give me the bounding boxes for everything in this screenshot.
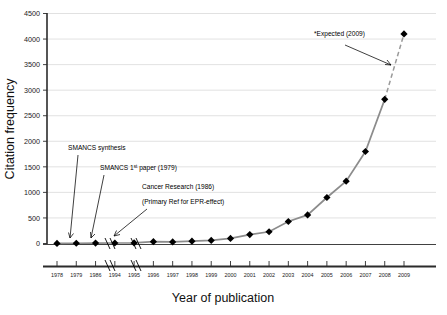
chart-canvas: 050010001500200025003000350040004500 197… <box>0 0 447 315</box>
annotation-sublabel: (Primary Ref for EPR-effect) <box>142 198 224 206</box>
y-tick-label: 0 <box>36 239 40 248</box>
x-tick-label: 2007 <box>359 272 371 278</box>
x-tick-label: 2001 <box>244 272 256 278</box>
x-axis-tick-labels: 1978197919861994199519961997199819992000… <box>51 272 410 278</box>
data-point-marker <box>53 240 60 247</box>
citation-frequency-chart: 050010001500200025003000350040004500 197… <box>0 0 447 315</box>
data-point-marker <box>188 238 195 245</box>
x-tick-label: 2006 <box>340 272 352 278</box>
data-point-marker <box>73 240 80 247</box>
y-axis-tick-labels: 050010001500200025003000350040004500 <box>24 9 40 248</box>
series-line-solid <box>57 99 385 243</box>
data-point-marker <box>227 235 234 242</box>
annotation-smancs-synthesis: SMANCS synthesis <box>68 144 126 238</box>
x-tick-label: 1995 <box>128 272 140 278</box>
series-group <box>53 30 407 247</box>
grid-lines <box>47 14 436 218</box>
x-tick-label: 2009 <box>398 272 410 278</box>
y-tick-label: 3500 <box>24 60 40 69</box>
y-tick-label: 3000 <box>24 86 40 95</box>
x-tick-label: 1999 <box>205 272 217 278</box>
data-point-marker <box>381 96 388 103</box>
annotation-label-main: SMANCS 1 <box>100 164 134 171</box>
y-tick-label: 2500 <box>24 111 40 120</box>
annotation-expected-2009: *Expected (2009) <box>314 30 391 65</box>
y-tick-label: 2000 <box>24 137 40 146</box>
x-tick-label: 2005 <box>321 272 333 278</box>
data-point-marker <box>400 30 407 37</box>
y-tick-label: 4500 <box>24 9 40 18</box>
x-tick-label: 1994 <box>109 272 121 278</box>
x-tick-label: 2004 <box>302 272 314 278</box>
data-point-marker <box>285 218 292 225</box>
x-tick-label: 1997 <box>167 272 179 278</box>
data-point-marker <box>92 239 99 246</box>
x-tick-label: 2008 <box>379 272 391 278</box>
series-markers <box>53 30 407 247</box>
series-line-projected <box>385 34 404 99</box>
x-tick-label: 1996 <box>147 272 159 278</box>
annotation-label: SMANCS 1st paper (1979) <box>100 164 177 172</box>
x-tick-label: 1998 <box>186 272 198 278</box>
annotation-label-tail: paper (1979) <box>137 164 177 172</box>
data-point-marker <box>265 228 272 235</box>
y-tick-label: 4000 <box>24 35 40 44</box>
y-tick-label: 1500 <box>24 163 40 172</box>
y-tick-label: 500 <box>28 214 40 223</box>
x-tick-label: 2003 <box>282 272 294 278</box>
x-tick-label: 1978 <box>51 272 63 278</box>
annotation-label: Cancer Research (1986) <box>142 183 214 191</box>
x-tick-label: 2002 <box>263 272 275 278</box>
x-tick-label: 1979 <box>70 272 82 278</box>
x-axis-title: Year of publication <box>172 291 274 305</box>
y-axis-title: Citation frequency <box>3 78 17 180</box>
annotation-label: SMANCS synthesis <box>68 144 126 152</box>
x-tick-label: 1986 <box>90 272 102 278</box>
annotation-label: *Expected (2009) <box>314 30 365 38</box>
x-tick-label: 2000 <box>225 272 237 278</box>
y-tick-label: 1000 <box>24 188 40 197</box>
data-point-marker <box>246 231 253 238</box>
data-point-marker <box>208 237 215 244</box>
x-axis-ticks <box>57 261 404 266</box>
annotation-cancer-research: Cancer Research (1986) (Primary Ref for … <box>114 183 224 236</box>
